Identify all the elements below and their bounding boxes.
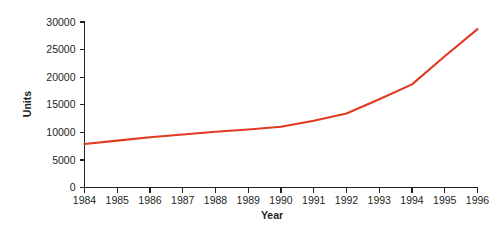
x-tick-label: 1994 bbox=[400, 194, 424, 206]
x-tick-label: 1991 bbox=[302, 194, 326, 206]
x-tick-label: 1995 bbox=[433, 194, 457, 206]
y-tick-label: 25000 bbox=[46, 43, 75, 55]
series-line-units bbox=[85, 29, 478, 144]
x-tick-label: 1986 bbox=[138, 194, 162, 206]
chart-plot-area: Units 050001000015000200002500030000 198… bbox=[0, 0, 504, 232]
line-chart: Units 050001000015000200002500030000 198… bbox=[0, 0, 504, 232]
y-tick-label: 0 bbox=[70, 181, 76, 193]
y-tick-label: 15000 bbox=[46, 98, 75, 110]
x-axis-title: Year bbox=[261, 209, 283, 221]
y-tick-label: 5000 bbox=[52, 154, 76, 166]
series-group bbox=[85, 29, 478, 144]
y-axis-title: Units bbox=[21, 91, 33, 117]
x-tick-label: 1988 bbox=[204, 194, 228, 206]
x-tick-label: 1992 bbox=[335, 194, 359, 206]
x-tick-label: 1990 bbox=[269, 194, 293, 206]
x-tick-label: 1993 bbox=[368, 194, 392, 206]
x-tick-label: 1984 bbox=[73, 194, 97, 206]
x-tick-label: 1985 bbox=[106, 194, 130, 206]
y-tick-label: 20000 bbox=[46, 71, 75, 83]
y-axis-ticks: 050001000015000200002500030000 bbox=[46, 16, 84, 194]
y-tick-label: 30000 bbox=[46, 16, 75, 28]
x-axis-ticks: 1984198519861987198819891990199119921993… bbox=[73, 188, 490, 206]
x-tick-label: 1989 bbox=[237, 194, 261, 206]
x-tick-label: 1996 bbox=[466, 194, 490, 206]
y-tick-label: 10000 bbox=[46, 126, 75, 138]
x-tick-label: 1987 bbox=[171, 194, 195, 206]
